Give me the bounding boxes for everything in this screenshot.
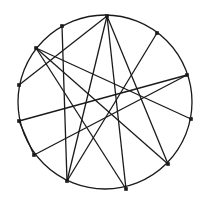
point-G	[65, 179, 69, 183]
point-F	[32, 153, 36, 157]
chord-E-K	[19, 75, 187, 121]
point-J	[189, 117, 193, 121]
chord-lines	[19, 16, 191, 189]
point-H	[124, 187, 128, 191]
chord-G-L	[67, 33, 157, 181]
chord-diagram	[0, 0, 208, 202]
point-A	[105, 14, 109, 18]
chord-F-K	[34, 75, 187, 155]
diagram-svg	[0, 0, 208, 202]
point-D	[17, 83, 21, 87]
chord-C-I	[36, 48, 168, 164]
point-B	[60, 24, 64, 28]
point-K	[185, 73, 189, 77]
point-C	[34, 46, 38, 50]
point-I	[166, 162, 170, 166]
chord-E-F	[19, 121, 34, 155]
point-E	[17, 119, 21, 123]
point-L	[155, 31, 159, 35]
